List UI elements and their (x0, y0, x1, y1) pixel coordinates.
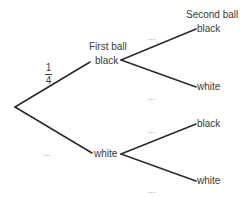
first-level-white: white (94, 148, 117, 159)
branch-root-black (15, 62, 90, 107)
first-ball-header: First ball (89, 41, 127, 52)
branch-white-white (121, 154, 196, 181)
probability-root-black: 1 4 (45, 63, 52, 86)
first-level-black: black (95, 55, 118, 66)
second-ball-header: Second ball (186, 9, 238, 20)
second-level-black-black: black (197, 23, 220, 34)
second-level-black-white: white (197, 81, 220, 92)
fraction-denominator: 4 (46, 76, 52, 86)
branch-white-black (121, 124, 196, 154)
second-level-white-white: white (197, 175, 220, 186)
probability-root-white: ... (43, 149, 51, 158)
branch-black-white (121, 60, 196, 87)
probability-black-white: ... (148, 93, 156, 102)
branch-root-white (15, 107, 92, 153)
probability-black-black: ... (148, 33, 156, 42)
probability-white-black: ... (148, 126, 156, 135)
fraction-numerator: 1 (46, 63, 52, 73)
probability-white-white: ... (148, 186, 156, 195)
branch-black-black (121, 29, 196, 60)
second-level-white-black: black (197, 118, 220, 129)
